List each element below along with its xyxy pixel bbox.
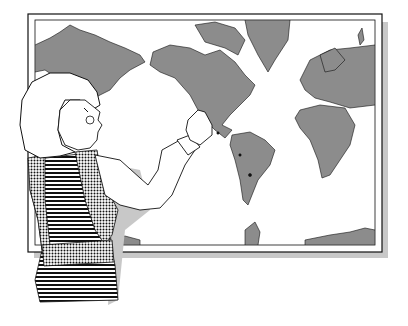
belt (42, 240, 114, 266)
illustration (0, 0, 408, 326)
earring (86, 116, 94, 124)
